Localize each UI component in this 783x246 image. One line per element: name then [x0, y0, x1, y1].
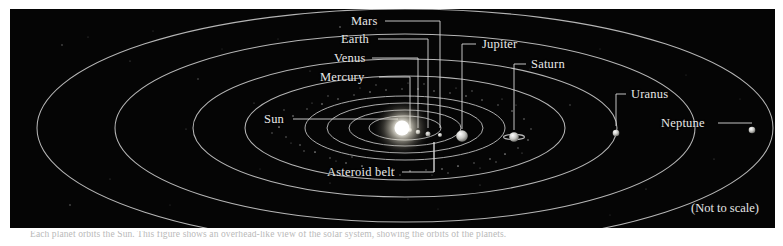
planet-mars: [438, 133, 442, 137]
label-neptune: Neptune: [661, 117, 705, 130]
sun-core: [395, 121, 410, 136]
sun-body: [372, 98, 432, 158]
label-sun: Sun: [264, 113, 284, 126]
label-uranus: Uranus: [631, 88, 668, 101]
caption-strip: Each planet orbits the Sun. This figure …: [10, 231, 775, 246]
label-saturn: Saturn: [531, 58, 565, 71]
leader-saturn: [514, 64, 526, 130]
caption-text: Each planet orbits the Sun. This figure …: [30, 231, 506, 239]
planet-uranus: [613, 130, 620, 137]
not-to-scale-note: (Not to scale): [691, 201, 759, 216]
planet-jupiter: [456, 130, 468, 142]
label-mars: Mars: [351, 15, 378, 28]
planet-neptune: [749, 127, 756, 134]
planet-saturn: [509, 132, 519, 142]
space-background-panel: Mars Earth Venus Mercury Jupiter Saturn …: [10, 9, 775, 228]
label-mercury: Mercury: [320, 71, 364, 84]
planet-saturn-group: [504, 132, 525, 142]
label-venus: Venus: [334, 52, 366, 65]
leader-uranus: [616, 94, 626, 126]
solar-system-figure: Mars Earth Venus Mercury Jupiter Saturn …: [0, 0, 783, 246]
label-earth: Earth: [341, 33, 369, 46]
label-asteroid-belt: Asteroid belt: [327, 166, 395, 179]
label-jupiter: Jupiter: [482, 38, 517, 51]
